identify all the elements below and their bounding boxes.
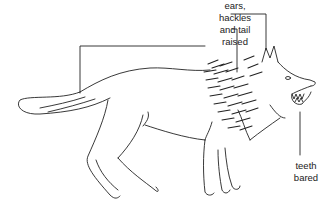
- label-line: and tail: [205, 24, 265, 36]
- label-line: ears,: [205, 0, 265, 12]
- label-line: hackles: [205, 12, 265, 24]
- label-line: bared: [286, 172, 326, 184]
- label-line: raised: [205, 36, 265, 48]
- label-teeth-bared: teeth bared: [286, 160, 326, 184]
- hackles-fur: [204, 56, 262, 130]
- wolf-diagram: ears, hackles and tail raised teeth bare…: [0, 0, 336, 210]
- label-line: teeth: [286, 160, 326, 172]
- label-ears-hackles-tail: ears, hackles and tail raised: [205, 0, 265, 48]
